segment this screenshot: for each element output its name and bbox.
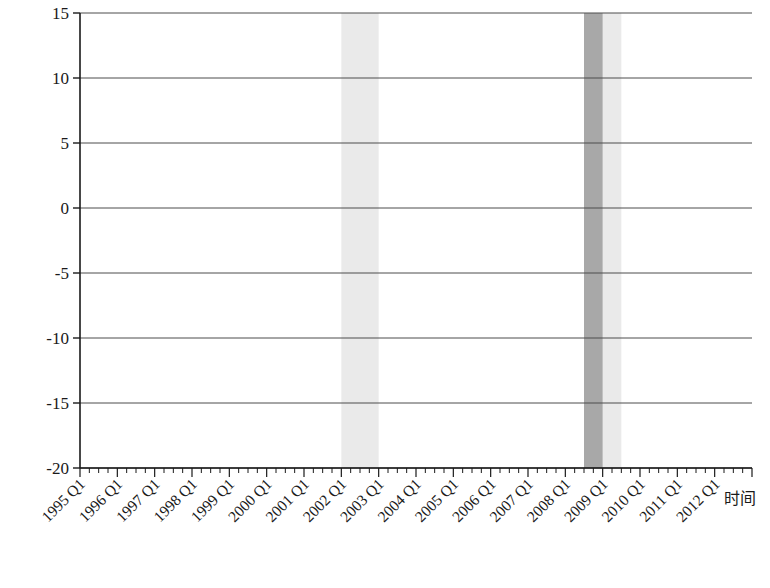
y-tick-label: 10 — [52, 69, 69, 88]
gridline-group — [80, 13, 752, 468]
y-tick-label: 0 — [61, 199, 70, 218]
y-tick-label: -15 — [46, 394, 69, 413]
chart-canvas: 151050-5-10-15-20 1995 Q11996 Q11997 Q11… — [0, 0, 770, 588]
y-tick-label: -5 — [55, 264, 69, 283]
shaded-band — [603, 13, 622, 468]
y-tick-label: 15 — [52, 4, 69, 23]
gdp-growth-chart: 151050-5-10-15-20 1995 Q11996 Q11997 Q11… — [0, 0, 770, 588]
y-tick-label: 5 — [61, 134, 70, 153]
shaded-band — [341, 13, 378, 468]
y-tick-label: -20 — [46, 459, 69, 478]
x-tick-label-group: 1995 Q11996 Q11997 Q11998 Q11999 Q12000 … — [38, 475, 723, 525]
shaded-band — [584, 13, 603, 468]
y-tick-group — [73, 13, 80, 468]
shaded-region-group — [341, 13, 621, 468]
x-tick-group — [80, 468, 752, 477]
x-axis-title: 时间 — [724, 490, 756, 507]
y-tick-label-group: 151050-5-10-15-20 — [46, 4, 69, 478]
y-tick-label: -10 — [46, 329, 69, 348]
